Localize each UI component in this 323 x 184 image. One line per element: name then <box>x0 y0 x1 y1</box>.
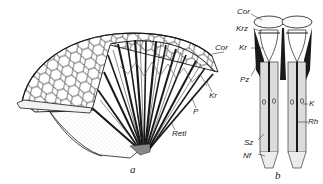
label-cor-a: Cor <box>215 44 228 52</box>
label-nf-b: Nf <box>243 152 251 160</box>
label-krz-b: Krz <box>236 25 248 33</box>
facet-dome <box>22 33 218 112</box>
cornea-right <box>282 16 312 28</box>
label-sz-b: Sz <box>244 139 253 147</box>
label-k-b: K <box>309 100 314 108</box>
label-retl-a: Retl <box>172 130 186 138</box>
label-cor-b: Cor <box>237 8 250 16</box>
panel-b-drawing <box>251 14 312 168</box>
compound-eye-diagram <box>0 0 323 184</box>
panel-a-drawing <box>17 33 224 158</box>
caption-b: b <box>275 170 281 181</box>
label-rh-b: Rh <box>308 118 318 126</box>
label-p-a: P <box>193 108 198 116</box>
caption-a: a <box>130 164 136 175</box>
label-kr-b: Kr <box>239 44 247 52</box>
cornea-left <box>254 16 284 28</box>
label-pz-b: Pz <box>240 76 249 84</box>
crystal-cone-right <box>288 30 306 62</box>
label-kr-a: Kr <box>209 92 217 100</box>
